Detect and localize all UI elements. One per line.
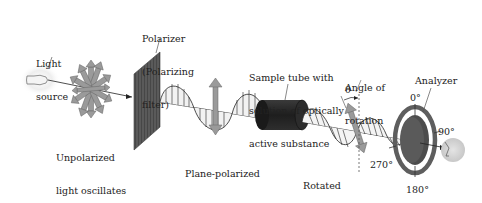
- label-line: rotation: [345, 115, 385, 126]
- label-angle-of-rotation: Angle of rotation: [345, 60, 385, 148]
- label-analyzer: Analyzer: [415, 75, 457, 86]
- label-polarizer: Polarizer (Polarizing filter): [142, 11, 194, 132]
- label-90-degrees: 90°: [438, 126, 455, 137]
- label-line: Light: [36, 58, 68, 69]
- label-unpolarized-light: Unpolarized light oscillates in all plan…: [56, 130, 126, 203]
- label-line: solution of optically: [249, 105, 344, 116]
- label-line: light oscillates: [185, 201, 267, 203]
- label-line: Rotated: [303, 180, 348, 191]
- label-line: Sample tube with: [249, 72, 344, 83]
- analyzer-leader: [423, 88, 431, 112]
- label-light-source: Light source: [36, 36, 68, 124]
- label-line: active substance: [249, 138, 344, 149]
- observer-eye-icon: [441, 138, 465, 162]
- label-line: light oscillates: [56, 185, 126, 196]
- label-line: source: [36, 91, 68, 102]
- plane-polarized-arrow-icon: [209, 78, 222, 135]
- label-270-degrees: 270°: [370, 159, 393, 170]
- unpolarized-arrows-icon: [68, 60, 115, 118]
- label-line: filter): [142, 99, 194, 110]
- analyzer: [389, 104, 441, 177]
- label-sample-tube: Sample tube with solution of optically a…: [249, 50, 344, 171]
- label-line: Unpolarized: [56, 152, 126, 163]
- label-0-degrees: 0°: [410, 92, 421, 103]
- label-theta: θ: [345, 84, 351, 95]
- label-line: (Polarizing: [142, 66, 194, 77]
- polarimeter-diagram: Light source Unpolarized light oscillate…: [0, 0, 482, 203]
- label-line: Polarizer: [142, 33, 194, 44]
- label-rotated-light: Rotated polarized light: [303, 158, 348, 203]
- label-180-degrees: 180°: [406, 184, 429, 195]
